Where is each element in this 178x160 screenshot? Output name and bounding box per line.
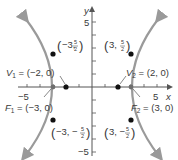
x-tick-label-max: 5 (153, 91, 158, 102)
f2-label: F2 = (3, 0) (131, 102, 173, 114)
vertex-v1 (63, 84, 68, 89)
f2-pointer (133, 89, 140, 97)
v1-pointer (60, 76, 65, 84)
point-label-pos3-pos5half: ( 3, 5 2 ) (104, 38, 130, 53)
focus-f1 (51, 85, 56, 90)
f1-pointer (44, 89, 51, 97)
vertex-v2 (115, 84, 120, 89)
svg-text:2: 2 (121, 46, 124, 52)
svg-text:3,: 3, (109, 39, 117, 50)
v2-label: V2 = (2, 0) (126, 67, 169, 79)
y-axis-label: y (83, 5, 90, 16)
focus-f2 (129, 85, 134, 90)
y-axis (92, 9, 96, 156)
svg-text:): ) (79, 38, 83, 53)
point-label-neg3-pos5half: ( −3, 5 2 ) (57, 38, 83, 53)
svg-text:2: 2 (81, 133, 84, 139)
point-label-pos3-neg5half: ( 3, − 5 2 ) (104, 125, 135, 140)
y-tick-label-min: −5 (78, 146, 89, 157)
svg-text:5: 5 (74, 39, 77, 45)
point-label-neg3-neg5half: ( −3, − 5 2 ) (51, 125, 90, 140)
svg-text:2: 2 (74, 46, 77, 52)
x-axis-label: x (165, 91, 172, 102)
point-neg3-pos5half (50, 51, 55, 56)
svg-text:5: 5 (126, 126, 129, 132)
svg-text:5: 5 (121, 39, 124, 45)
hyperbola-diagram: −5 5 x y 5 −5 V1 = (−2, 0) V2 (0, 0, 178, 160)
svg-text:): ) (131, 125, 135, 140)
y-tick-label-max: 5 (84, 17, 89, 28)
f1-label: F1 = (−3, 0) (5, 102, 53, 114)
svg-text:): ) (86, 125, 90, 140)
svg-text:): ) (126, 38, 130, 53)
svg-text:−3, −: −3, − (56, 126, 78, 137)
v1-label: V1 = (−2, 0) (6, 67, 55, 79)
x-axis (18, 84, 170, 87)
point-pos3-neg5half (128, 117, 133, 122)
point-neg3-neg5half (50, 117, 55, 122)
svg-text:5: 5 (81, 126, 84, 132)
svg-text:2: 2 (126, 133, 129, 139)
svg-text:3, −: 3, − (109, 126, 126, 137)
x-tick-label-min: −5 (18, 91, 29, 102)
